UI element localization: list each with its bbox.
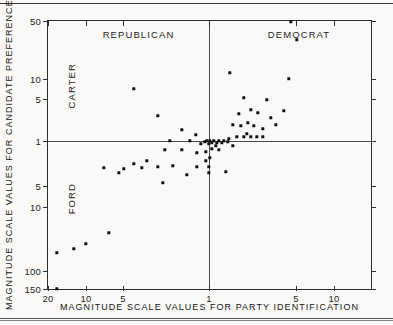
scatter-point (249, 135, 252, 138)
x-tick-label: 1 (206, 293, 211, 304)
scatter-point (195, 151, 198, 154)
scatter-point (210, 141, 213, 144)
scatter-point (194, 133, 197, 136)
scatter-point (84, 242, 87, 245)
scatter-point (122, 167, 125, 170)
scatter-point (242, 96, 245, 99)
y-tick-mark-right (371, 271, 376, 272)
y-tick-label: 50 (30, 16, 41, 27)
y-tick-mark-right (371, 186, 376, 187)
scatter-point (224, 170, 227, 173)
y-tick-mark (43, 207, 48, 208)
y-tick-mark (43, 271, 48, 272)
scatter-point (220, 141, 223, 144)
scatter-point (256, 111, 259, 114)
x-tick-mark (296, 286, 297, 291)
scatter-point (261, 127, 264, 130)
x-tick-mark-top (209, 21, 210, 26)
y-tick-label: 5 (36, 181, 41, 192)
x-tick-mark-top (296, 21, 297, 26)
x-tick-mark (123, 286, 124, 291)
y-tick-mark-right (371, 207, 376, 208)
y-tick-mark-right (371, 141, 376, 142)
scatter-point (214, 144, 217, 147)
side-label-ford: FORD (66, 183, 77, 214)
quadrant-label-republican: REPUBLICAN (103, 29, 175, 40)
x-tick-mark-top (334, 21, 335, 26)
scatter-point (207, 165, 210, 168)
scatter-point (217, 148, 220, 151)
scatter-point (242, 135, 245, 138)
scatter-point (269, 116, 272, 119)
y-tick-mark (43, 79, 48, 80)
scatter-point (204, 150, 207, 153)
scatter-point (102, 166, 105, 169)
scatter-point (199, 142, 202, 145)
scatter-point (207, 142, 210, 145)
scatter-point (204, 159, 207, 162)
scatter-point (180, 148, 183, 151)
scatter-point (295, 38, 298, 41)
x-tick-label: 10 (329, 293, 340, 304)
plot-area: 501051510100150 201051510 REPUBLICAN DEM… (48, 21, 371, 289)
x-tick-mark-top (48, 21, 49, 26)
x-tick-mark-top (86, 21, 87, 26)
scatter-point (265, 98, 268, 101)
scatter-point (255, 135, 258, 138)
y-axis-title: MAGNITUDE SCALE VALUES FOR CANDIDATE PRE… (2, 20, 16, 290)
scatter-point (261, 135, 264, 138)
x-tick-mark (334, 286, 335, 291)
scatter-point (195, 165, 198, 168)
page-rule-bottom (0, 318, 393, 319)
scatter-point (252, 124, 255, 127)
figure-scan: MAGNITUDE SCALE VALUES FOR CANDIDATE PRE… (0, 0, 393, 325)
scatter-point (231, 144, 234, 147)
scatter-point (282, 109, 285, 112)
x-tick-mark (86, 286, 87, 291)
scatter-point (210, 147, 213, 150)
x-tick-label: 10 (81, 293, 92, 304)
scatter-point (107, 231, 110, 234)
scatter-point (163, 148, 166, 151)
y-tick-mark-right (371, 79, 376, 80)
y-tick-mark (43, 186, 48, 187)
y-tick-label: 1 (36, 136, 41, 147)
x-tick-label: 5 (293, 293, 298, 304)
scatter-point (235, 135, 238, 138)
scatter-point (171, 164, 174, 167)
scatter-point (203, 140, 206, 143)
scatter-point (72, 247, 75, 250)
y-tick-mark (43, 99, 48, 100)
y-tick-label: 5 (36, 94, 41, 105)
scatter-point (246, 121, 249, 124)
x-tick-mark-top (123, 21, 124, 26)
scatter-point (226, 140, 229, 143)
side-label-carter: CARTER (66, 63, 77, 109)
scatter-point (168, 139, 171, 142)
scatter-point (140, 166, 143, 169)
y-tick-label: 10 (30, 202, 41, 213)
y-tick-label: 10 (30, 74, 41, 85)
y-tick-mark-right (371, 21, 376, 22)
scatter-point (117, 171, 120, 174)
scatter-point (180, 128, 183, 131)
scatter-point (239, 124, 242, 127)
scatter-point (237, 112, 240, 115)
x-tick-label: 5 (120, 293, 125, 304)
y-tick-label: 150 (25, 284, 41, 295)
y-tick-label: 100 (25, 266, 41, 277)
scatter-point (208, 156, 211, 159)
scatter-point (228, 71, 231, 74)
y-tick-mark-right (371, 99, 376, 100)
y-tick-mark-right (371, 289, 376, 290)
scatter-point (287, 77, 290, 80)
scatter-point (188, 139, 191, 142)
scatter-point (132, 87, 135, 90)
scatter-point (132, 162, 135, 165)
scatter-point (161, 181, 164, 184)
scatter-point (156, 165, 159, 168)
plot-frame: 501051510100150 201051510 REPUBLICAN DEM… (47, 20, 372, 290)
y-tick-mark (43, 141, 48, 142)
scatter-point (207, 171, 210, 174)
scatter-point (231, 123, 234, 126)
